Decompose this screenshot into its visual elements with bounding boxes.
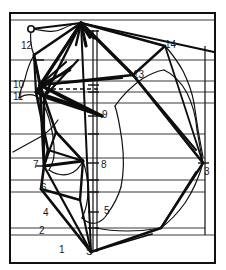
node-label-1: 1 <box>59 245 65 255</box>
node-label-9: 9 <box>102 110 108 120</box>
node-label-14: 14 <box>165 40 176 50</box>
node-marker-circle <box>28 26 34 32</box>
figure-root: 12 10 11 14 13 9 7 8 3 6 4 5 2 1 S <box>0 0 226 270</box>
figure-background <box>0 0 226 270</box>
node-label-s: S <box>86 247 93 257</box>
node-label-6: 6 <box>41 183 47 193</box>
node-label-11: 11 <box>13 92 23 102</box>
node-label-8: 8 <box>101 160 107 170</box>
node-label-13: 13 <box>133 70 144 80</box>
node-label-3: 3 <box>204 167 210 177</box>
diagram-canvas <box>0 0 226 270</box>
node-label-5: 5 <box>104 206 110 216</box>
node-label-2: 2 <box>39 226 45 236</box>
node-label-7: 7 <box>33 160 39 170</box>
node-label-12: 12 <box>21 41 32 51</box>
node-label-4: 4 <box>43 208 49 218</box>
node-label-10: 10 <box>13 80 24 90</box>
